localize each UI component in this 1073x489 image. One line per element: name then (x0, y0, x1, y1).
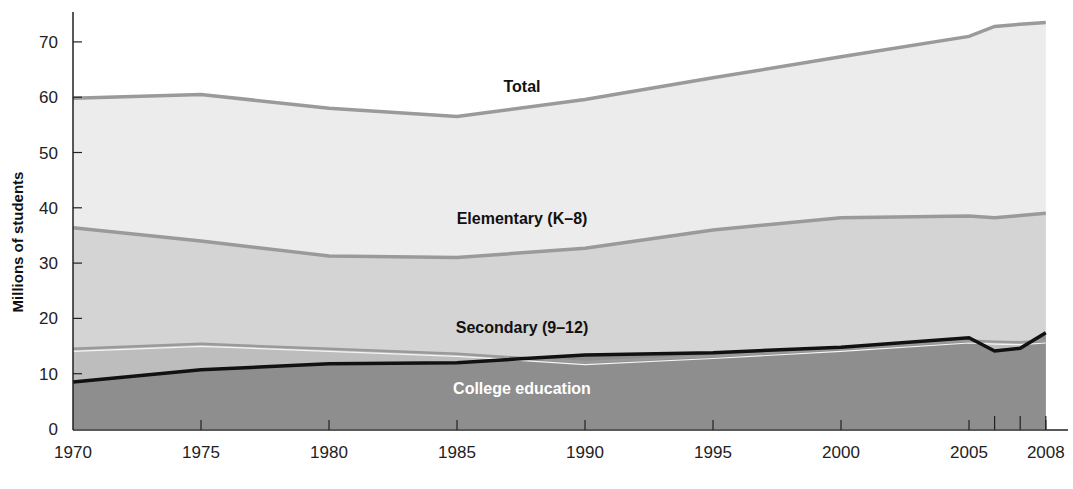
y-tick-label: 30 (39, 254, 58, 273)
y-tick-label: 0 (49, 420, 58, 439)
x-tick-label: 1970 (54, 443, 92, 462)
x-tick-label: 2000 (822, 443, 860, 462)
y-tick-label: 10 (39, 365, 58, 384)
y-tick-label: 60 (39, 88, 58, 107)
y-tick-label: 70 (39, 33, 58, 52)
x-tick-label: 1990 (566, 443, 604, 462)
y-tick-label: 20 (39, 309, 58, 328)
x-tick-label: 1985 (438, 443, 476, 462)
label-college: College education (453, 380, 591, 397)
y-tick-label: 40 (39, 199, 58, 218)
label-secondary: Secondary (9–12) (456, 319, 589, 336)
label-elementary: Elementary (K–8) (457, 210, 588, 227)
x-tick-label: 2005 (950, 443, 988, 462)
x-tick-label: 1980 (310, 443, 348, 462)
y-axis-title: Millions of students (9, 172, 26, 313)
label-total: Total (503, 78, 540, 95)
y-tick-label: 50 (39, 144, 58, 163)
enrollment-area-chart: 010203040506070 197019751980198519901995… (0, 0, 1073, 489)
x-tick-label: 2008 (1027, 443, 1065, 462)
x-tick-label: 1975 (182, 443, 220, 462)
x-tick-label: 1995 (694, 443, 732, 462)
